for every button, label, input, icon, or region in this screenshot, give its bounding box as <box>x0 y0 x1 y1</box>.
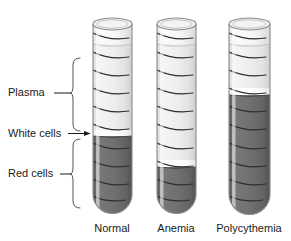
tube-polycythemia-highlight <box>232 24 236 210</box>
tube-normal-highlight <box>96 24 100 210</box>
test-tube-anemia: Anemia <box>157 18 196 234</box>
tube-caption-normal: Normal <box>94 222 129 234</box>
tube-anemia-contents <box>157 20 196 216</box>
tube-anemia-highlight <box>160 24 164 210</box>
tube-caption-polycythemia: Polycythemia <box>216 222 282 234</box>
label-red-cells: Red cells <box>8 167 54 179</box>
label-plasma: Plasma <box>8 86 46 98</box>
tube-normal-contents <box>93 20 132 216</box>
tube-caption-anemia: Anemia <box>157 222 195 234</box>
label-white-cells: White cells <box>8 127 62 139</box>
test-tube-normal: Normal <box>93 18 132 234</box>
tube-polycythemia-contents <box>229 20 270 216</box>
diagram-canvas: Normal <box>0 0 291 241</box>
hematocrit-diagram: Normal <box>0 0 291 241</box>
